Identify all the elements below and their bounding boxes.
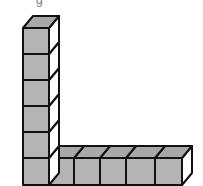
cube-front-face (23, 132, 49, 158)
cube-l-shape-diagram (0, 0, 203, 186)
cube-front-face (23, 28, 49, 54)
cube-front-face (23, 80, 49, 106)
cubes-group (23, 16, 192, 185)
cube-front-face (23, 54, 49, 80)
cube-front-face (23, 158, 49, 185)
cube-front-face (100, 158, 126, 185)
cube-front-face (155, 158, 182, 185)
cube-front-face (23, 106, 49, 132)
cube-front-face (126, 158, 155, 185)
cube-front-face (74, 158, 100, 185)
